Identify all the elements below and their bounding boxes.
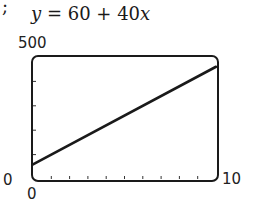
plot-area bbox=[0, 0, 254, 214]
axis-ticks bbox=[33, 81, 198, 179]
series-line bbox=[33, 67, 216, 165]
graph-frame bbox=[32, 56, 218, 181]
